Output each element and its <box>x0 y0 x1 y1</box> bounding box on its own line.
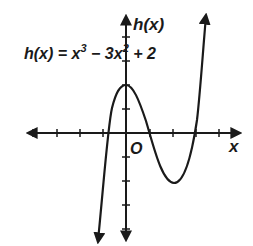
curve-arrow-left <box>98 235 99 242</box>
origin-label: O <box>130 140 143 157</box>
svg-text:h(x) = x3 − 3x2 + 2: h(x) = x3 − 3x2 + 2 <box>24 42 156 62</box>
y-axis-label: h(x) <box>133 15 165 34</box>
cubic-function-graph: h(x) x O h(x) = x3 − 3x2 + 2 <box>0 0 253 246</box>
x-axis-label: x <box>228 137 240 156</box>
curve-arrow-right <box>205 15 206 22</box>
function-equation: h(x) = x3 − 3x2 + 2 <box>24 42 156 62</box>
